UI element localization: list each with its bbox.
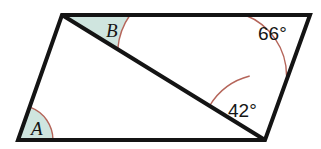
geometry-figure: A B 66° 42° (0, 0, 321, 149)
angle-b-label: B (106, 20, 118, 41)
angle-a-label: A (29, 118, 43, 139)
angle-66-label: 66° (258, 23, 287, 44)
angle-42-label: 42° (228, 100, 257, 121)
parallelogram-diagram: A B 66° 42° (0, 0, 321, 149)
